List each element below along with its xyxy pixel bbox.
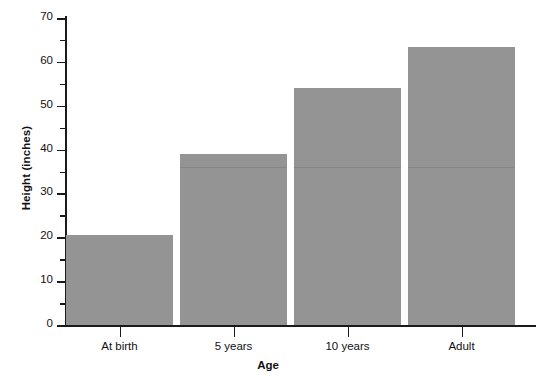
bar: [180, 154, 287, 325]
y-tick-label: 30: [40, 185, 53, 197]
x-tick-mark: [462, 327, 464, 337]
scanline-artifact: [408, 167, 515, 168]
y-tick-label: 60: [40, 54, 53, 66]
y-tick-mark: [60, 128, 66, 130]
y-tick-mark: [60, 215, 66, 217]
y-tick-label: 10: [40, 273, 53, 285]
y-tick-mark: [60, 40, 66, 42]
plot-area: 010203040506070: [66, 18, 522, 325]
x-tick-label: At birth: [101, 340, 137, 352]
y-tick-mark: [57, 281, 66, 283]
x-axis-area: Age At birth5 years10 yearsAdult: [0, 327, 536, 384]
x-tick-label: Adult: [448, 340, 474, 352]
x-tick-label: 10 years: [325, 340, 369, 352]
y-tick-mark: [57, 106, 66, 108]
y-axis-title: Height (inches): [20, 88, 32, 248]
y-tick-mark: [57, 150, 66, 152]
y-tick-mark: [60, 84, 66, 86]
y-tick-label: 40: [40, 142, 53, 154]
x-tick-mark: [120, 327, 122, 337]
bar: [294, 88, 401, 325]
y-tick-mark: [57, 18, 66, 20]
bar: [408, 47, 515, 325]
x-axis-title: Age: [0, 359, 536, 371]
x-tick-label: 5 years: [215, 340, 253, 352]
x-tick-mark: [348, 327, 350, 337]
scanline-artifact: [294, 167, 401, 168]
bar: [66, 235, 173, 325]
y-tick-label: 70: [40, 10, 53, 22]
y-tick-label: 50: [40, 98, 53, 110]
y-tick-mark: [57, 193, 66, 195]
x-tick-mark: [234, 327, 236, 337]
y-tick-mark: [57, 237, 66, 239]
scanline-artifact: [180, 167, 287, 168]
y-tick-label: 20: [40, 229, 53, 241]
bar-chart: Height (inches) 010203040506070 Age At b…: [0, 0, 536, 384]
y-tick-mark: [57, 62, 66, 64]
y-tick-mark: [60, 172, 66, 174]
